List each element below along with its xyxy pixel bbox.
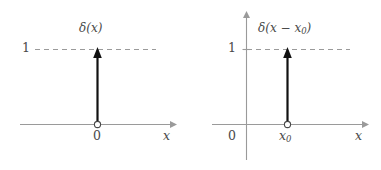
left-amplitude-label: 1 — [22, 42, 30, 55]
right-x-axis-label: x — [355, 130, 362, 143]
right-function-label: δ(x − x0) — [258, 22, 311, 36]
right-origin-label: 0 — [228, 130, 236, 143]
left-impulse-arrowhead — [93, 47, 102, 58]
left-x-axis-arrowhead — [170, 121, 177, 128]
right-amplitude-label: 1 — [228, 42, 236, 55]
right-function-var-x: x — [270, 21, 277, 35]
right-y-axis-arrowhead — [243, 11, 250, 18]
right-function-minus: − — [277, 21, 295, 35]
right-position-sub: 0 — [286, 134, 291, 144]
left-x-axis-label: x — [163, 130, 170, 143]
right-position-label: x0 — [279, 130, 291, 144]
delta-function-figure: δ(x) 1 0 x δ(x − x0) 1 0 x0 x — [0, 0, 381, 170]
left-impulse-base-marker — [94, 121, 100, 127]
left-origin-label: 0 — [93, 130, 101, 143]
right-function-delta-open: δ( — [258, 21, 270, 35]
right-position-base: x — [279, 128, 286, 143]
figure-canvas — [0, 0, 381, 170]
right-impulse-base-marker — [284, 121, 290, 127]
right-x-axis-arrowhead — [362, 121, 369, 128]
left-panel-graphics — [20, 47, 177, 128]
left-function-label: δ(x) — [79, 22, 102, 34]
right-function-close-paren: ) — [307, 21, 312, 35]
right-impulse-arrowhead — [283, 47, 292, 58]
